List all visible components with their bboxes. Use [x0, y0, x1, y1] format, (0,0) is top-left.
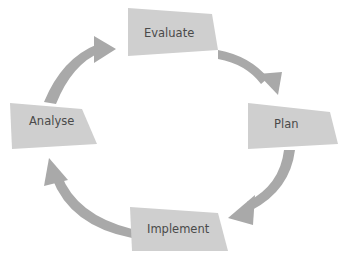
stage-label-evaluate: Evaluate — [144, 26, 194, 40]
arrow-implement-to-analyse — [44, 158, 132, 238]
stage-label-implement: Implement — [147, 222, 210, 236]
stage-label-analyse: Analyse — [29, 114, 74, 128]
stage-label-plan: Plan — [274, 117, 298, 131]
stage-plan: Plan — [248, 103, 338, 149]
arrow-plan-to-implement — [228, 150, 295, 225]
arrow-evaluate-to-plan — [218, 50, 282, 95]
arrow-analyse-to-evaluate — [44, 36, 116, 104]
stage-analyse: Analyse — [10, 103, 97, 149]
cycle-diagram: Evaluate Plan Implement Analyse — [0, 0, 353, 264]
stage-evaluate: Evaluate — [128, 8, 218, 56]
stage-implement: Implement — [130, 207, 228, 251]
